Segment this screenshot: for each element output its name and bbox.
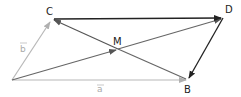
vector-label-b: b (20, 43, 27, 54)
vector-am-arrow (12, 50, 116, 80)
vector-md-arrow (118, 19, 221, 49)
diagram-canvas: C D B M b a (0, 0, 241, 97)
vector-a-text: a (97, 84, 103, 94)
vector-b-text: b (20, 44, 26, 54)
segment-mb (118, 49, 186, 79)
vector-diagram: C D B M b a (0, 0, 241, 97)
vector-mc-arrow (54, 20, 118, 49)
point-label-c: C (46, 6, 53, 17)
point-label-d: D (225, 4, 233, 15)
vector-cd-arrow (54, 18, 221, 19)
point-label-m: M (113, 36, 122, 47)
vector-label-a: a (97, 84, 104, 94)
point-label-b: B (184, 84, 191, 95)
